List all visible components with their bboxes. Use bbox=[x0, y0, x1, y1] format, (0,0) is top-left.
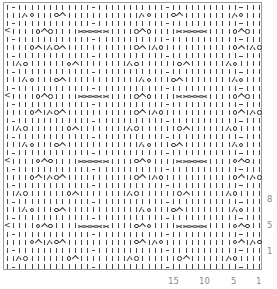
chart-row bbox=[4, 125, 261, 133]
chart-row bbox=[4, 44, 261, 52]
knit-symbol bbox=[256, 117, 262, 125]
knit-symbol bbox=[256, 11, 262, 19]
knit-symbol bbox=[256, 19, 262, 27]
chart-row bbox=[4, 198, 261, 206]
knit-symbol bbox=[256, 214, 262, 222]
knit-symbol bbox=[256, 165, 262, 173]
chart-row bbox=[4, 108, 261, 116]
chart-row bbox=[4, 214, 261, 222]
knit-symbol bbox=[256, 222, 262, 230]
knit-symbol bbox=[256, 76, 262, 84]
knit-symbol bbox=[256, 190, 262, 198]
row-label-5: 5 bbox=[267, 220, 272, 230]
yarn-over-symbol bbox=[256, 44, 262, 52]
knit-symbol bbox=[256, 141, 262, 149]
chart-row bbox=[4, 52, 261, 60]
chart-row bbox=[4, 165, 261, 173]
col-label-15: 15 bbox=[168, 276, 179, 286]
chart-row bbox=[4, 149, 261, 157]
chart-row bbox=[4, 246, 261, 254]
knit-symbol bbox=[256, 198, 262, 206]
yarn-over-symbol bbox=[256, 108, 262, 116]
knit-symbol bbox=[256, 263, 262, 271]
chart-row bbox=[4, 68, 261, 76]
chart-row bbox=[4, 3, 261, 11]
knit-symbol bbox=[256, 133, 262, 141]
chart-row bbox=[4, 173, 261, 181]
knit-symbol bbox=[256, 149, 262, 157]
chart-row bbox=[4, 100, 261, 108]
chart-row bbox=[4, 27, 261, 35]
knit-symbol bbox=[256, 230, 262, 238]
knit-symbol bbox=[256, 246, 262, 254]
col-label-10: 10 bbox=[199, 276, 210, 286]
col-label-1: 1 bbox=[256, 276, 261, 286]
chart-row bbox=[4, 133, 261, 141]
chart-row bbox=[4, 222, 261, 230]
knit-symbol bbox=[256, 100, 262, 108]
knit-symbol bbox=[256, 27, 262, 35]
chart-row bbox=[4, 254, 261, 262]
knit-symbol bbox=[256, 206, 262, 214]
chart-row bbox=[4, 141, 261, 149]
yarn-over-symbol bbox=[256, 173, 262, 181]
chart-row bbox=[4, 11, 261, 19]
chart-row bbox=[4, 19, 261, 27]
knit-symbol bbox=[256, 52, 262, 60]
knit-symbol bbox=[256, 35, 262, 43]
chart-row bbox=[4, 263, 261, 271]
knit-symbol bbox=[256, 68, 262, 76]
yarn-over-symbol bbox=[256, 238, 262, 246]
row-label-1: 1 bbox=[267, 246, 272, 256]
knit-symbol bbox=[256, 60, 262, 68]
chart-row bbox=[4, 238, 261, 246]
chart-row bbox=[4, 157, 261, 165]
chart-row bbox=[4, 117, 261, 125]
knit-symbol bbox=[256, 157, 262, 165]
chart-row bbox=[4, 92, 261, 100]
col-label-5: 5 bbox=[231, 276, 236, 286]
chart-row bbox=[4, 60, 261, 68]
chart-row bbox=[4, 76, 261, 84]
knit-symbol bbox=[256, 3, 262, 11]
knitting-chart-grid bbox=[3, 2, 262, 270]
chart-row bbox=[4, 230, 261, 238]
chart-row bbox=[4, 181, 261, 189]
knit-symbol bbox=[256, 92, 262, 100]
row-label-8: 8 bbox=[267, 194, 272, 204]
chart-row bbox=[4, 190, 261, 198]
chart-row bbox=[4, 84, 261, 92]
knit-symbol bbox=[256, 125, 262, 133]
knit-symbol bbox=[256, 84, 262, 92]
knit-symbol bbox=[256, 254, 262, 262]
knit-symbol bbox=[256, 181, 262, 189]
chart-row bbox=[4, 206, 261, 214]
chart-row bbox=[4, 35, 261, 43]
